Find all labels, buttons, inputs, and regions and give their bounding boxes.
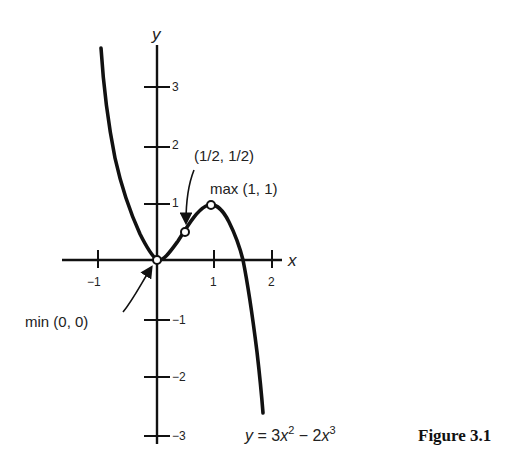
- x-axis-label: x: [287, 251, 297, 270]
- inflection-label: (1/2, 1/2): [194, 147, 254, 164]
- y-ticks: 3 2 1 −1 −2 −3: [144, 80, 186, 443]
- y-tick-label: 2: [172, 138, 179, 152]
- y-tick-label: −3: [172, 429, 186, 443]
- min-point: [153, 256, 161, 264]
- figure-3-1-chart: x y −1 1 2 3 2 1 −1 −2 −3 min (0, 0) (1/…: [0, 0, 510, 462]
- x-tick-label: 2: [268, 275, 275, 289]
- equation-label: y = 3x2 − 2x3: [244, 424, 336, 444]
- min-arrow: [123, 268, 151, 312]
- x-tick-label: −1: [87, 275, 101, 289]
- inflection-arrow: [186, 170, 194, 222]
- y-tick-label: −2: [172, 370, 186, 384]
- y-axis-label: y: [151, 25, 162, 44]
- y-tick-label: 1: [172, 196, 179, 210]
- y-tick-label: 3: [172, 80, 179, 94]
- max-label: max (1, 1): [210, 180, 278, 197]
- max-point: [207, 201, 215, 209]
- figure-caption: Figure 3.1: [418, 426, 491, 445]
- y-tick-label: −1: [172, 313, 186, 327]
- min-label: min (0, 0): [25, 313, 88, 330]
- x-tick-label: 1: [210, 275, 217, 289]
- inflection-point: [181, 228, 189, 236]
